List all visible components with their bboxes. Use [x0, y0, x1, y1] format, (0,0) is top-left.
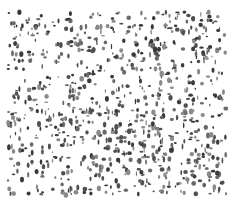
speckle [107, 116, 109, 120]
speckle [106, 148, 109, 150]
speckle [71, 74, 74, 77]
speckle [95, 26, 100, 30]
speckle [146, 156, 150, 159]
speckle [15, 66, 18, 70]
speckle [110, 75, 114, 79]
speckle [151, 121, 155, 126]
speckle [123, 151, 125, 154]
speckle [200, 12, 201, 17]
speckle [19, 51, 23, 57]
speckle [48, 144, 51, 150]
speckle [75, 96, 79, 100]
speckle [213, 135, 216, 140]
speckle [66, 170, 69, 175]
speckle [36, 109, 39, 113]
speckle [183, 139, 185, 144]
speckle [11, 116, 15, 120]
speckle [121, 153, 125, 155]
speckle [137, 161, 139, 163]
speckle [57, 42, 60, 47]
speckle [12, 149, 15, 154]
speckle [102, 130, 106, 135]
speckle [31, 150, 34, 156]
speckle [194, 130, 199, 133]
speckle [208, 193, 211, 195]
speckle [148, 168, 152, 172]
speckle [57, 128, 59, 131]
speckle [223, 33, 227, 37]
speckle [61, 190, 65, 193]
speckle [77, 92, 80, 96]
speckle [57, 76, 59, 78]
speckle [104, 112, 108, 114]
speckle [110, 185, 112, 189]
speckle [160, 139, 161, 144]
speckle [140, 52, 143, 55]
speckle [30, 160, 34, 164]
speckle [142, 87, 144, 90]
speckle [41, 108, 43, 114]
speckle [163, 156, 165, 162]
speckle [69, 118, 73, 123]
speckle [9, 44, 12, 48]
speckle [140, 119, 144, 121]
speckle [119, 101, 122, 103]
speckle [20, 177, 24, 183]
speckle [80, 60, 83, 65]
speckle [168, 181, 170, 187]
speckle [208, 48, 210, 52]
speckle [58, 132, 61, 134]
speckle [112, 79, 115, 83]
speckle [14, 101, 16, 104]
speckle [147, 181, 148, 183]
speckle [9, 124, 12, 128]
speckle [104, 70, 105, 72]
speckle [86, 115, 89, 117]
speckle [118, 125, 121, 127]
speckle [16, 25, 18, 28]
speckle [143, 140, 147, 142]
speckle [207, 9, 211, 14]
speckle [81, 49, 84, 51]
speckle [7, 179, 9, 182]
speckle [11, 144, 12, 150]
speckle [102, 158, 106, 161]
speckle [207, 18, 209, 22]
speckle [39, 193, 43, 196]
speckle [70, 123, 73, 125]
speckle [15, 36, 16, 38]
speckle [59, 157, 62, 162]
speckle [67, 179, 70, 181]
speckle [139, 79, 142, 84]
speckle [124, 94, 125, 97]
speckle [98, 139, 100, 144]
speckle [87, 36, 91, 39]
speckle [8, 12, 11, 14]
speckle [70, 95, 74, 97]
speckle [134, 185, 136, 187]
speckle [18, 136, 21, 141]
speckle [7, 68, 10, 70]
speckle [98, 113, 102, 117]
speckle [53, 25, 56, 27]
speckle [40, 14, 43, 18]
speckle [61, 177, 62, 180]
speckle [54, 176, 56, 179]
speckle [87, 166, 89, 170]
speckle [150, 29, 152, 34]
speckle [115, 178, 118, 183]
speckle [212, 126, 214, 129]
speckle [134, 120, 138, 123]
speckle [69, 185, 71, 191]
speckle [197, 69, 200, 75]
speckle [218, 38, 221, 42]
speckle [83, 120, 85, 122]
speckle [66, 143, 68, 147]
speckle [149, 67, 151, 69]
speckle [92, 13, 95, 16]
speckle [207, 153, 211, 157]
speckle [96, 130, 100, 136]
speckle [78, 124, 82, 126]
speckle [181, 63, 184, 67]
speckle [100, 29, 102, 35]
